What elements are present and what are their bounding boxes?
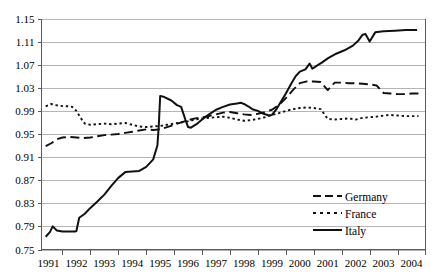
x-tick-label: 1997 [205, 257, 228, 269]
x-tick-label: 2004 [401, 257, 424, 269]
line-chart: 1.151.111.071.030.990.950.910.870.830.79… [0, 0, 445, 279]
x-tick-label: 1991 [37, 257, 59, 269]
legend-label: Germany [345, 191, 388, 204]
y-tick-label: 0.87 [15, 174, 35, 186]
series-line-germany [46, 81, 419, 146]
x-tick-label: 1996 [177, 257, 200, 269]
y-tick-label: 0.91 [15, 151, 34, 163]
x-tick-label: 1994 [121, 257, 144, 269]
y-tick-label: 0.95 [15, 128, 35, 140]
legend-label: Italy [345, 225, 366, 238]
legend-item-germany[interactable]: Germany [313, 191, 388, 204]
chart-canvas: 1.151.111.071.030.990.950.910.870.830.79… [0, 0, 445, 279]
chart-legend: GermanyFranceItaly [313, 191, 388, 238]
series-line-france [46, 104, 419, 127]
data-series [46, 30, 419, 237]
x-tick-label: 1993 [93, 257, 116, 269]
x-tick-label: 2003 [373, 257, 396, 269]
y-tick-label: 1.15 [15, 13, 35, 25]
y-tick-label: 1.03 [15, 82, 35, 94]
y-tick-label: 1.11 [16, 36, 35, 48]
y-tick-label: 0.75 [15, 244, 35, 256]
x-tick-label: 1992 [65, 257, 87, 269]
x-tick-label: 2002 [345, 257, 367, 269]
x-tick-label: 1998 [233, 257, 256, 269]
y-tick-labels: 1.151.111.071.030.990.950.910.870.830.79… [15, 13, 35, 256]
x-tick-label: 2001 [317, 257, 339, 269]
x-tick-labels: 1991199219931994199519961997199819992000… [37, 257, 423, 269]
legend-label: France [345, 208, 376, 220]
legend-item-france[interactable]: France [313, 208, 376, 220]
y-tick-label: 1.07 [15, 59, 35, 71]
x-tick-label: 1995 [149, 257, 172, 269]
y-tick-label: 0.79 [15, 220, 35, 232]
y-tick-label: 0.83 [15, 197, 35, 209]
y-tick-label: 0.99 [15, 105, 35, 117]
x-tick-label: 2000 [289, 257, 312, 269]
x-tick-label: 1999 [261, 257, 284, 269]
series-line-italy [46, 30, 417, 237]
